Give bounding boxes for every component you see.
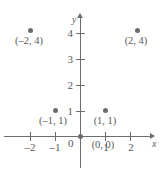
data-point-label: (0, 0) xyxy=(92,140,115,151)
y-tick-label: 4 xyxy=(62,28,73,39)
data-point-label: (1, 1) xyxy=(94,116,117,127)
data-point-label: (–1, 1) xyxy=(39,116,67,127)
data-point-label: (2, 4) xyxy=(125,36,148,47)
data-point-origin xyxy=(78,134,83,139)
data-point xyxy=(135,28,140,33)
x-axis-label: x xyxy=(152,139,156,149)
cartesian-plane-figure: x y –2 –1 1 2 0 1 2 3 4 (–2, 4) (2, 4) (… xyxy=(0,0,162,175)
data-point-label: (–2, 4) xyxy=(15,36,43,47)
data-point xyxy=(28,28,33,33)
x-tick-label: –2 xyxy=(25,142,36,153)
y-tick-label: 3 xyxy=(62,54,73,65)
y-axis-arrowhead-icon xyxy=(77,13,83,18)
y-axis-line xyxy=(80,16,81,168)
y-tick-mark xyxy=(76,85,85,86)
data-point xyxy=(103,108,108,113)
y-tick-label: 2 xyxy=(62,80,73,91)
y-axis-label: y xyxy=(72,15,76,25)
y-tick-mark xyxy=(76,33,85,34)
y-tick-mark xyxy=(76,111,85,112)
x-tick-mark xyxy=(55,132,56,141)
x-tick-label: 2 xyxy=(128,142,134,153)
x-tick-label: –1 xyxy=(50,142,61,153)
x-tick-mark xyxy=(130,132,131,141)
origin-tick-label: 0 xyxy=(68,138,74,149)
data-point xyxy=(53,108,58,113)
x-tick-mark xyxy=(30,132,31,141)
y-tick-mark xyxy=(76,59,85,60)
